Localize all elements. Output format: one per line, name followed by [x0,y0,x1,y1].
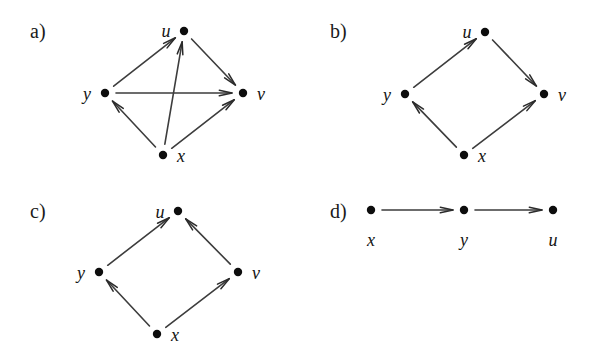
panel-label-a: a) [30,20,46,43]
graph-diagram-svg: a)uyvxb)uyvxc)uyvxd)xyu [0,0,598,359]
edge-b-u-to-v-line [493,40,537,86]
node-label-b-y: y [381,85,391,105]
edge-c-y-to-u [108,218,170,266]
edge-b-x-to-y-line [413,102,457,147]
edge-b-y-to-u-line [414,39,477,88]
edge-c-x-to-y-line [107,280,150,326]
edge-a-u-to-v-line [192,39,236,85]
node-label-a-x: x [176,146,185,166]
node-dot-a-x[interactable] [159,151,167,159]
edge-b-x-to-v [473,101,536,149]
edge-c-v-to-u-line [186,219,231,264]
node-label-a-v: v [257,84,265,104]
edge-d-x-to-y [382,207,453,213]
node-dot-d-y[interactable] [460,206,468,214]
figure-canvas: a)uyvxb)uyvxc)uyvxd)xyu [0,0,598,359]
node-dot-b-y[interactable] [401,90,409,98]
node-label-d-u: u [549,230,558,250]
node-dot-a-v[interactable] [239,89,247,97]
edge-a-y-to-u [114,38,176,86]
panel-d: d)xyu [330,200,558,250]
panel-c: c)uyvx [30,200,260,345]
panel-label-b: b) [330,20,347,43]
edge-a-x-to-y-line [113,101,156,147]
edge-b-y-to-u [414,39,477,88]
node-dot-b-v[interactable] [540,90,548,98]
edge-c-y-to-u-line [108,218,170,266]
edge-a-x-to-y [113,101,156,147]
node-label-b-v: v [558,85,566,105]
node-dot-d-x[interactable] [367,206,375,214]
node-dot-c-y[interactable] [95,268,103,276]
edge-a-x-to-v [172,100,235,149]
node-dot-d-u[interactable] [549,206,557,214]
node-dot-b-x[interactable] [460,151,468,159]
panel-label-c: c) [30,200,46,223]
panel-b: b)uyvx [330,20,566,166]
panel-c-nodes: uyvx [75,202,260,345]
node-dot-c-x[interactable] [153,330,161,338]
node-dot-b-u[interactable] [481,28,489,36]
edge-c-x-to-y [107,280,150,326]
edge-c-x-to-v [166,279,230,328]
edge-a-x-to-v-line [172,100,235,149]
node-label-b-u: u [463,22,472,42]
node-label-d-y: y [458,230,468,250]
edge-a-u-to-v [192,39,236,85]
node-dot-c-u[interactable] [174,207,182,215]
node-label-a-u: u [162,21,171,41]
edge-b-x-to-v-line [473,101,536,149]
node-dot-a-y[interactable] [101,89,109,97]
node-label-c-v: v [252,263,260,283]
edge-c-x-to-v-line [166,279,230,328]
node-label-c-x: x [170,325,179,345]
node-label-d-x: x [366,230,375,250]
node-label-a-y: y [81,84,91,104]
panel-b-nodes: uyvx [381,22,566,166]
node-dot-a-u[interactable] [180,27,188,35]
edge-b-x-to-y [413,102,457,147]
panel-label-d: d) [330,200,347,223]
edge-d-y-to-u [475,207,542,213]
panel-c-edges [107,218,231,328]
panel-a: a)uyvx [30,20,265,166]
node-label-c-y: y [75,263,85,283]
edge-b-u-to-v [493,40,537,86]
node-dot-c-v[interactable] [234,268,242,276]
panel-a-edges [113,38,236,148]
panel-b-edges [413,39,537,149]
node-label-b-x: x [477,146,486,166]
edge-a-y-to-u-line [114,38,176,86]
node-label-c-u: u [156,202,165,222]
edge-c-v-to-u [186,219,231,264]
